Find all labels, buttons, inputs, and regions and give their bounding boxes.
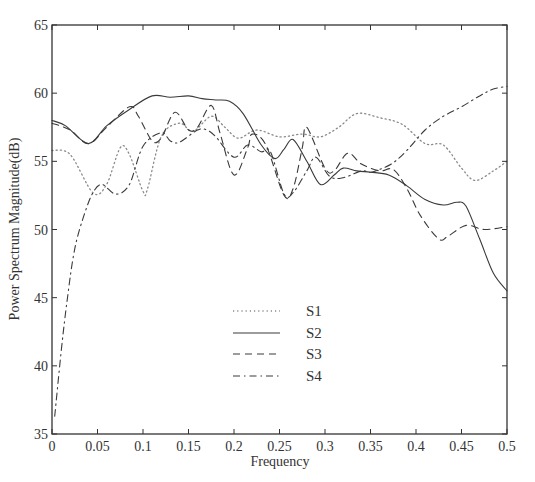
legend-label-s3: S3	[306, 346, 322, 362]
y-tick-label: 45	[34, 291, 48, 306]
y-tick-label: 65	[34, 18, 48, 33]
x-tick-label: 0.25	[267, 439, 292, 454]
series-line-s2	[52, 95, 507, 291]
x-tick-label: 0.5	[498, 439, 516, 454]
legend-label-s1: S1	[306, 303, 322, 319]
plot-series	[52, 86, 507, 416]
x-tick-label: 0	[49, 439, 56, 454]
y-tick-label: 35	[34, 427, 48, 442]
y-tick-label: 40	[34, 359, 48, 374]
legend: S1S2S3S4	[233, 303, 322, 384]
y-tick-label: 60	[34, 86, 48, 101]
y-tick-label: 50	[34, 223, 48, 238]
x-tick-label: 0.35	[358, 439, 383, 454]
plot-frame	[52, 25, 507, 434]
power-spectrum-chart: 00.050.10.150.20.250.30.350.40.450.5 354…	[0, 0, 535, 482]
x-tick-label: 0.05	[85, 439, 110, 454]
y-tick-label: 55	[34, 154, 48, 169]
legend-label-s4: S4	[306, 368, 322, 384]
x-tick-label: 0.15	[176, 439, 201, 454]
legend-label-s2: S2	[306, 325, 322, 341]
x-tick-label: 0.1	[134, 439, 152, 454]
chart-canvas: 00.050.10.150.20.250.30.350.40.450.5 354…	[0, 0, 535, 482]
series-line-s3	[52, 105, 507, 240]
x-tick-label: 0.2	[225, 439, 243, 454]
y-axis: 35404550556065	[34, 18, 507, 442]
x-tick-label: 0.45	[449, 439, 474, 454]
x-axis: 00.050.10.150.20.250.30.350.40.450.5	[49, 25, 516, 454]
series-line-s4	[55, 86, 507, 416]
x-tick-label: 0.3	[316, 439, 334, 454]
x-tick-label: 0.4	[407, 439, 425, 454]
y-axis-title: Power Spectrum Magnitude(dB)	[7, 137, 23, 320]
x-axis-title: Frequency	[250, 454, 309, 469]
